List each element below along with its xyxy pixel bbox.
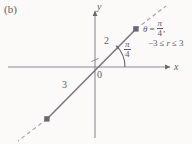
- range-le-right: ≤: [170, 38, 179, 48]
- angle-fraction: π 4: [124, 40, 131, 59]
- origin-label: 0: [97, 70, 102, 80]
- polar-graph-figure: (b) y x 0 2 3 π 4 θ= π 4 , −3≤r≤3: [0, 0, 192, 144]
- angle-measure-label: π 4: [124, 40, 131, 59]
- theta-equation-comma: ,: [163, 24, 165, 34]
- range-lower-bound: −3: [148, 38, 158, 48]
- range-upper-bound: 3: [179, 38, 184, 48]
- x-axis-label: x: [174, 62, 178, 72]
- dashed-extension-lower: [18, 119, 47, 141]
- y-axis-label: y: [97, 2, 101, 12]
- polar-ray-segment: [47, 29, 136, 119]
- theta-equation-label: θ= π 4 ,: [143, 19, 165, 38]
- endpoint-marker-lower: [44, 116, 49, 121]
- endpoint-marker-upper: [133, 26, 138, 31]
- range-le-left: ≤: [158, 38, 167, 48]
- segment-length-label-lower: 3: [62, 80, 67, 90]
- angle-fraction-denominator: 4: [124, 50, 131, 59]
- panel-label: (b): [4, 4, 17, 15]
- equals-sign: =: [147, 24, 156, 34]
- segment-length-label-upper: 2: [104, 36, 109, 46]
- r-range-label: −3≤r≤3: [148, 39, 184, 48]
